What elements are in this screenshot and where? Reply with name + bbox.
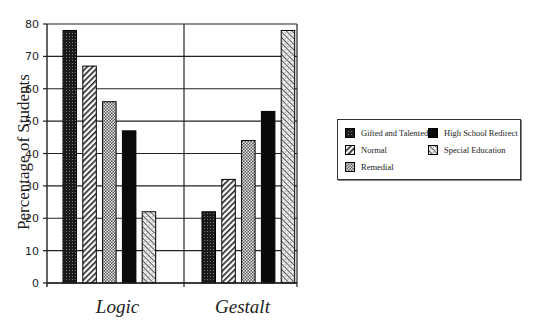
bar xyxy=(103,102,117,283)
bar xyxy=(281,30,295,283)
y-axis-label: Percentage of Students xyxy=(14,74,34,230)
y-tick-label: 70 xyxy=(25,50,39,63)
legend-label: Normal xyxy=(361,145,387,155)
legend-label: Special Education xyxy=(444,145,506,155)
legend-label: High School Redirect xyxy=(444,128,518,138)
bars xyxy=(63,30,295,283)
bar xyxy=(202,212,216,283)
legend-item: Normal xyxy=(345,145,387,155)
legend-swatch-icon xyxy=(428,128,438,138)
bar xyxy=(261,111,275,283)
x-category-label: Logic xyxy=(95,296,140,317)
bar xyxy=(122,131,135,283)
bar xyxy=(242,141,256,283)
y-tick-label: 10 xyxy=(25,245,39,258)
legend-label: Remedial xyxy=(361,162,394,172)
legend-item: Gifted and Talented xyxy=(345,128,428,138)
bar xyxy=(83,66,97,283)
legend-swatch-icon xyxy=(428,145,438,155)
bar xyxy=(63,30,77,283)
x-category-label: Gestalt xyxy=(215,296,271,317)
legend-swatch-icon xyxy=(345,128,355,138)
legend: Gifted and TalentedHigh School RedirectN… xyxy=(337,119,521,180)
legend-swatch-icon xyxy=(345,162,355,172)
y-tick-label: 0 xyxy=(32,277,39,290)
legend-swatch-icon xyxy=(345,145,355,155)
y-tick-label: 80 xyxy=(25,18,39,31)
legend-item: Remedial xyxy=(345,162,394,172)
bar xyxy=(142,212,156,283)
bar xyxy=(222,179,236,283)
legend-item: Special Education xyxy=(428,145,506,155)
legend-label: Gifted and Talented xyxy=(361,128,428,138)
legend-item: High School Redirect xyxy=(428,128,518,138)
